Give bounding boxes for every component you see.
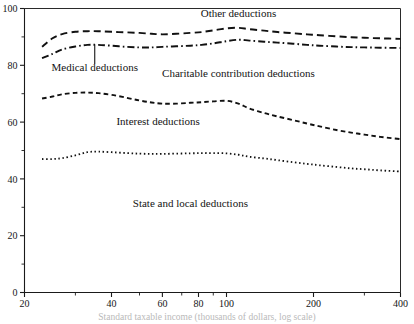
chart-root: 020406080100 20406080100200400 Other ded… [0, 0, 414, 324]
chart-background [0, 0, 414, 324]
series-label-other-deductions: Other deductions [201, 7, 276, 19]
series-label-interest-deductions: Interest deductions [116, 115, 199, 127]
x-axis-caption: Standard taxable income (thousands of do… [98, 312, 315, 323]
x-tick-label: 40 [106, 298, 116, 309]
series-label-state-and-local-deductions: State and local deductions [133, 197, 248, 209]
x-tick-label: 100 [219, 298, 234, 309]
y-tick-label: 60 [8, 117, 18, 128]
series-label-charitable-contribution-deductions: Charitable contribution deductions [162, 67, 315, 79]
y-tick-label: 0 [13, 287, 18, 298]
x-tick-label: 60 [157, 298, 167, 309]
deductions-line-chart: 020406080100 20406080100200400 Other ded… [0, 0, 414, 324]
x-tick-label: 20 [20, 298, 30, 309]
y-tick-label: 80 [8, 60, 18, 71]
x-tick-label: 400 [393, 298, 408, 309]
x-tick-label: 200 [306, 298, 321, 309]
y-tick-label: 100 [3, 3, 18, 14]
x-tick-label: 80 [193, 298, 203, 309]
series-label-medical-deductions: Medical deductions [52, 61, 138, 73]
y-tick-label: 40 [8, 174, 18, 185]
y-tick-label: 20 [8, 230, 18, 241]
